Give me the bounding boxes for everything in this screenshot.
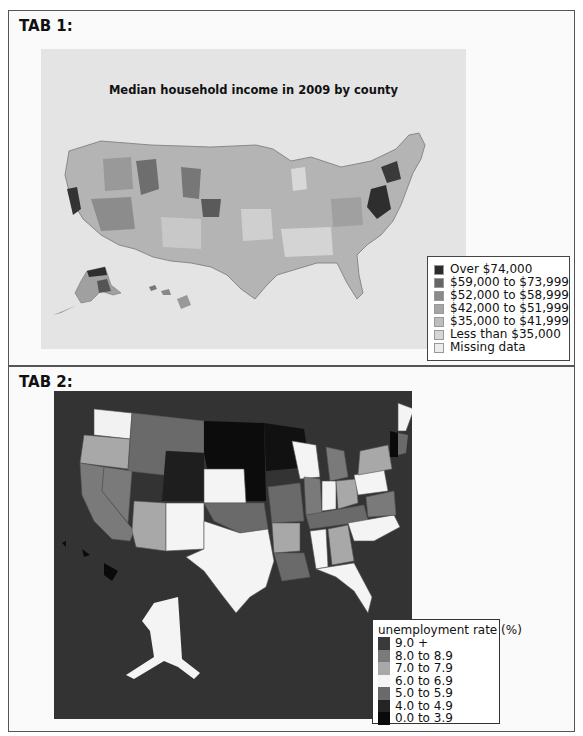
legend-label: 5.0 to 5.9: [395, 687, 453, 700]
legend-swatch: [378, 712, 390, 725]
income-legend: Over $74,000 $59,000 to $73,999 $52,000 …: [427, 256, 570, 361]
legend-swatch: [378, 637, 390, 650]
legend-swatch: [378, 650, 390, 663]
unemployment-legend: unemployment rate (%) 9.0 + 8.0 to 8.9 7…: [372, 619, 500, 724]
unemployment-state-map: [54, 391, 412, 719]
us-county-income-map-graphic: [41, 49, 466, 349]
tab1-panel: TAB 1: Median household income in 2009 b…: [8, 10, 575, 366]
us-state-unemployment-map-graphic: [54, 391, 412, 719]
legend-swatch: [434, 343, 444, 353]
legend-label: 9.0 +: [395, 637, 428, 650]
legend-label: 0.0 to 3.9: [395, 712, 453, 725]
legend-swatch: [434, 265, 444, 275]
tab2-label: TAB 2:: [19, 373, 73, 391]
legend-swatch: [434, 278, 444, 288]
legend-item: 9.0 +: [378, 637, 499, 650]
legend-item: 7.0 to 7.9: [378, 662, 499, 675]
legend-swatch: [378, 675, 390, 688]
legend-label: 7.0 to 7.9: [395, 662, 453, 675]
legend-swatch: [434, 291, 444, 301]
legend-swatch: [378, 700, 390, 713]
legend-swatch: [434, 330, 444, 340]
legend-item: Missing data: [434, 341, 569, 354]
income-county-map: Median household income in 2009 by count…: [41, 49, 466, 349]
legend-title: unemployment rate (%): [378, 623, 499, 637]
legend-swatch: [378, 687, 390, 700]
legend-swatch: [378, 662, 390, 675]
legend-swatch: [434, 304, 444, 314]
tab2-panel: TAB 2:: [8, 366, 575, 732]
legend-label: Missing data: [450, 341, 526, 354]
legend-swatch: [434, 317, 444, 327]
tab1-label: TAB 1:: [19, 17, 73, 35]
legend-item: 5.0 to 5.9: [378, 687, 499, 700]
legend-item: 0.0 to 3.9: [378, 712, 499, 725]
